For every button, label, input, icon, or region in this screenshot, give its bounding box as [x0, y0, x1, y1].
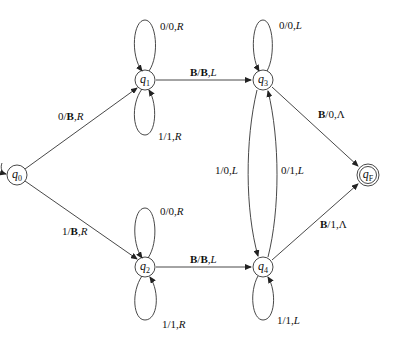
edge-q0-q1: [25, 88, 137, 169]
state-label-q2: q2: [135, 259, 155, 278]
edge-q3-q4: [248, 90, 258, 256]
loop-q2-top: [135, 208, 155, 258]
edge-label-q4-qF: B/1,Λ: [320, 218, 347, 230]
edge-label-q1-loop-bottom: 1/1,R: [158, 130, 182, 142]
edge-label-q0-q1: 0/B,R: [58, 110, 83, 122]
edge-label-q2-loop-top: 0/0,R: [160, 205, 184, 217]
edge-q4-q3: [268, 91, 277, 257]
edge-q0-q2: [25, 181, 137, 259]
state-label-q1: q1: [135, 72, 155, 91]
loop-q2-bottom: [135, 276, 157, 320]
loop-q1-top: [134, 20, 155, 71]
edge-label-q2-loop-bottom: 1/1,R: [162, 318, 186, 330]
state-label-qF: qF: [358, 167, 378, 186]
initial-arrow: [1, 163, 6, 174]
edge-label-q3-q4: 1/0,L: [215, 164, 238, 176]
edge-label-q4-loop: 1/1,L: [277, 314, 300, 326]
edge-label-q3-loop: 0/0,L: [279, 19, 302, 31]
edge-label-q2-q4: B/B,L: [190, 253, 217, 265]
edge-label-q1-loop-top: 0/0,R: [160, 20, 184, 32]
loop-q4: [253, 276, 274, 320]
edge-label-q3-qF: B/0,Λ: [318, 108, 345, 120]
loop-q1-bottom: [134, 89, 154, 135]
edge-label-q0-q2: 1/B,R: [62, 225, 87, 237]
state-label-q0: q0: [7, 167, 27, 186]
state-label-q3: q3: [253, 72, 273, 91]
edge-q3-qF: [272, 87, 358, 166]
edge-label-q1-q3: B/B,L: [190, 66, 217, 78]
state-diagram-canvas: [0, 0, 398, 348]
edge-label-q4-q3: 0/1,L: [281, 164, 304, 176]
loop-q3: [253, 20, 272, 71]
state-label-q4: q4: [253, 259, 273, 278]
